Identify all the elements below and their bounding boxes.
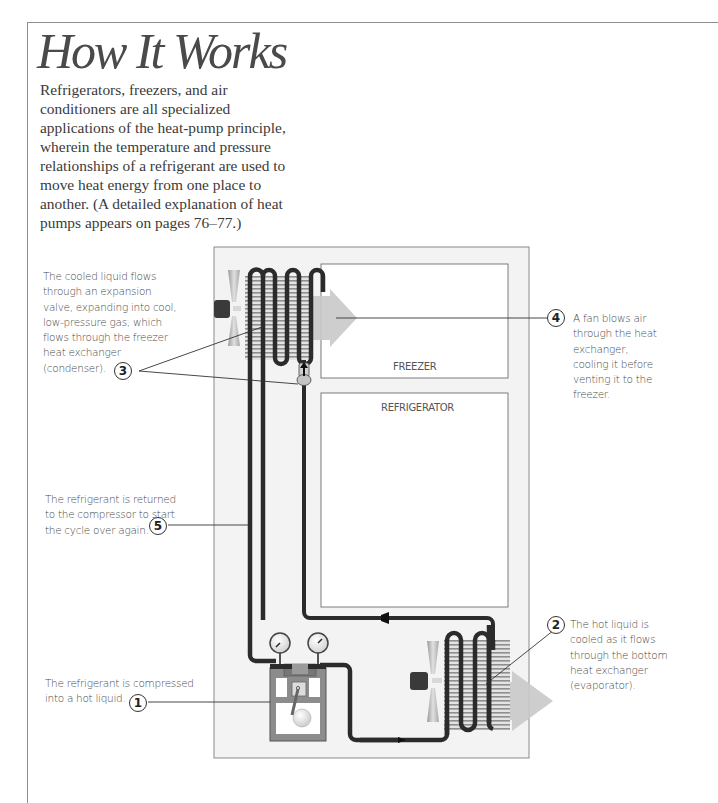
refrigerator-label: REFRIGERATOR [381,402,454,413]
callout-3-text: The cooled liquid flows through an expan… [43,269,183,376]
callout-2-number: 2 [547,616,565,634]
compressor-icon [270,664,326,741]
expansion-valve-icon [297,362,311,386]
callout-3-number: 3 [114,362,132,380]
callout-1-text: The refrigerant is compressed into a hot… [45,676,195,707]
freezer-label: FREEZER [393,361,436,372]
refrigerator-compartment [321,393,508,607]
callout-4-number: 4 [547,309,565,327]
callout-1-number: 1 [129,694,147,712]
callout-5-number: 5 [149,517,167,535]
callout-4-text: A fan blows air through the heat exchang… [573,311,661,403]
callout-2-text: The hot liquid is cooled as it flows thr… [570,617,670,693]
